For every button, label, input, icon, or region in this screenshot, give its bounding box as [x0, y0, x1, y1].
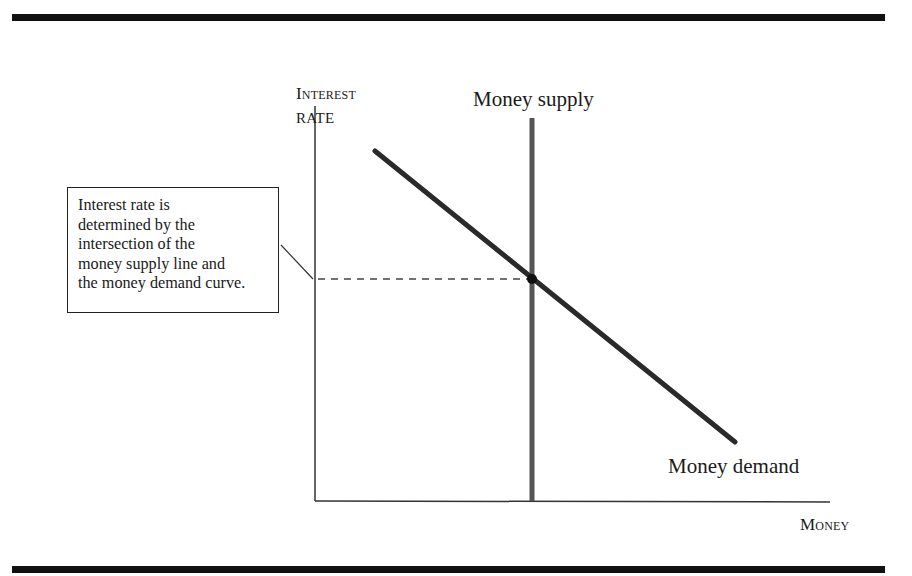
callout-line: the money demand curve. [78, 274, 278, 294]
money-demand-label: Money demand [668, 454, 799, 479]
x-axis [315, 501, 830, 502]
equilibrium-point [527, 274, 537, 284]
callout-line: money supply line and [78, 255, 278, 275]
money-supply-label: Money supply [473, 87, 594, 112]
x-axis-label: Money [800, 515, 849, 535]
callout-box: Interest rate is determined by the inter… [67, 187, 279, 313]
callout-line: determined by the [78, 216, 278, 236]
y-axis-label-line2: rate [296, 110, 334, 127]
money-demand-line [375, 151, 735, 442]
callout-line: intersection of the [78, 235, 278, 255]
bottom-rule [12, 566, 885, 573]
callout-line: Interest rate is [78, 196, 278, 216]
callout-leader-line [281, 245, 313, 279]
y-axis-label: Interest [296, 84, 356, 104]
